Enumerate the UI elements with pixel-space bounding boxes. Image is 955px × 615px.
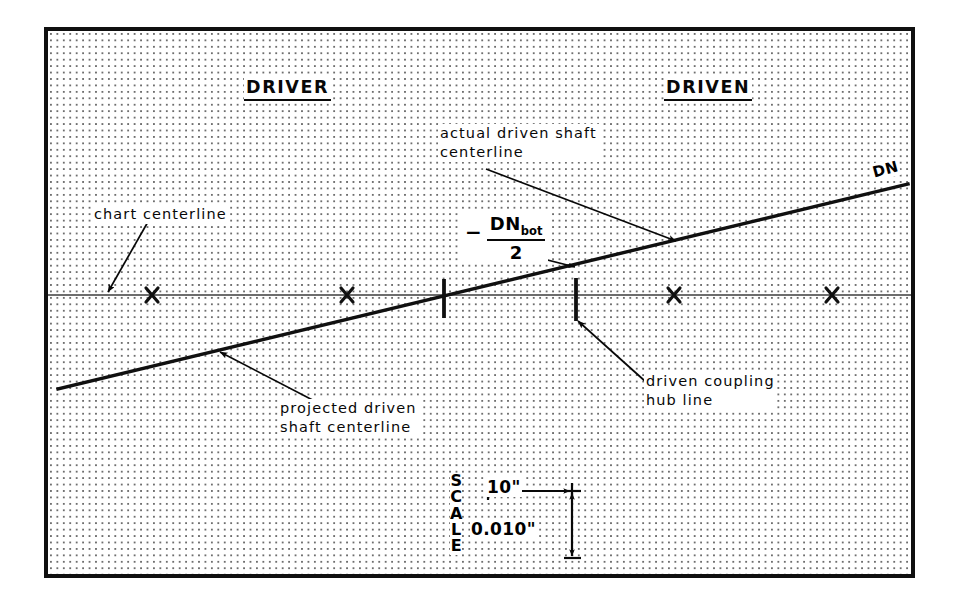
driven-coupling-leader [578, 321, 646, 382]
annotation-line-2: centerline [438, 143, 599, 162]
annotation-line-1: driven coupling [644, 372, 777, 391]
formula-numerator: DNbot [487, 213, 546, 239]
formula-fraction: DNbot 2 [487, 213, 546, 263]
heading-driver: DRIVER [244, 76, 331, 101]
scale-vertical-value: 0.010" [470, 519, 537, 539]
chart-plot-area: DRIVER DRIVEN chart centerline actual dr… [48, 31, 911, 574]
annotation-chart-centerline: chart centerline [92, 205, 229, 224]
formula-minus-sign: − [465, 222, 482, 242]
formula-numerator-main: DN [490, 213, 521, 234]
heading-driven: DRIVEN [664, 76, 752, 101]
scale-legend-word: S C A L E [450, 473, 462, 555]
scale-legend: S C A L E 10" 0.010" [444, 471, 614, 576]
annotation-driven-coupling-hub-line: driven coupling hub line [644, 372, 777, 410]
formula-numerator-subscript: bot [521, 224, 543, 238]
annotation-line-2: shaft centerline [278, 418, 419, 437]
annotation-line-1: projected driven [278, 399, 419, 418]
annotation-actual-driven-shaft-centerline: actual driven shaft centerline [438, 124, 599, 162]
diagram-page: DRIVER DRIVEN chart centerline actual dr… [0, 0, 955, 615]
chart-centerline-leader [108, 213, 153, 292]
annotation-projected-driven-shaft-centerline: projected driven shaft centerline [278, 399, 419, 437]
dn-bot-over-two-formula: − DNbot 2 [462, 212, 548, 264]
chart-frame: DRIVER DRIVEN chart centerline actual dr… [44, 27, 915, 578]
scale-letter: E [451, 538, 462, 554]
scale-horizontal-value: 10" [486, 477, 522, 497]
annotation-line-1: actual driven shaft [438, 124, 599, 143]
annotation-line-2: hub line [644, 391, 777, 410]
formula-denominator: 2 [510, 241, 523, 263]
